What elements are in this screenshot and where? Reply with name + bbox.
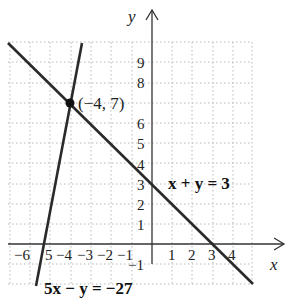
- y-tick-1: 1: [137, 217, 145, 233]
- x-tick-neg1: −1: [117, 247, 133, 263]
- y-tick-8: 8: [137, 75, 145, 91]
- intersection-point: [66, 99, 75, 108]
- x-tick-neg6: −6: [14, 247, 30, 263]
- x-tick-neg2: −2: [97, 247, 113, 263]
- axes: [8, 10, 284, 264]
- x-tick-neg5: 5: [45, 247, 53, 263]
- y-tick-6: 6: [137, 116, 145, 132]
- x-tick-3: 3: [208, 247, 216, 263]
- x-tick-1: 1: [168, 247, 176, 263]
- equation-label-1: x + y = 3: [168, 174, 230, 193]
- y-tick-9: 9: [137, 55, 145, 71]
- x-axis-label: x: [269, 255, 278, 274]
- intersection-label: (−4, 7): [78, 94, 124, 113]
- equation-label-2: 5x − y = −27: [44, 279, 133, 298]
- y-tick-2: 2: [137, 197, 145, 213]
- x-tick-neg3: −3: [77, 247, 93, 263]
- x-tick-labels: −6 5 −4 −3 −2 −1 1 2 3 4: [14, 247, 236, 263]
- coordinate-plane: x y 9 8 6 5 4 3 2 1 −1 −6 5 −4 −3 −2 −1 …: [0, 0, 286, 298]
- y-tick-5: 5: [137, 136, 145, 152]
- y-tick-3: 3: [137, 177, 145, 193]
- x-tick-2: 2: [188, 247, 196, 263]
- x-tick-neg4: −4: [56, 247, 72, 263]
- y-axis-label: y: [126, 7, 136, 26]
